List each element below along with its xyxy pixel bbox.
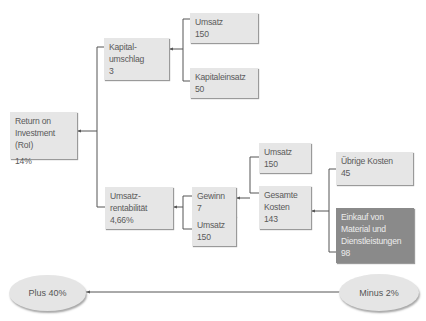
node-label: Umsatz- [110, 190, 168, 202]
node-umsatz-mid: Umsatz 150 [192, 216, 236, 246]
node-value: 143 [264, 213, 306, 225]
node-value: 45 [341, 167, 408, 179]
node-roi: Return on Investment (RoI) 14% [10, 112, 77, 159]
node-label: Kapitaleinsatz [195, 71, 253, 83]
node-umsatz-top: Umsatz 150 [190, 13, 258, 43]
node-value: 4,66% [110, 214, 168, 226]
node-value: 150 [264, 158, 306, 170]
node-value: 150 [197, 231, 231, 243]
node-einkauf: Einkauf von Material und Dienstleistunge… [336, 208, 414, 263]
node-value: 14% [15, 155, 72, 167]
node-label: Einkauf von [341, 211, 409, 223]
node-label: Return on [15, 115, 72, 127]
node-label: Gewinn [197, 190, 231, 202]
node-label: rentabilität [110, 202, 168, 214]
node-label: Kosten [264, 201, 306, 213]
node-label: Umsatz [264, 146, 306, 158]
node-umsatzrentabilitaet: Umsatz- rentabilität 4,66% [105, 187, 173, 229]
node-uebrige-kosten: Übrige Kosten 45 [336, 152, 413, 185]
node-value: 98 [341, 247, 409, 259]
node-gewinn: Gewinn 7 [192, 187, 236, 217]
node-kapitaleinsatz: Kapitaleinsatz 50 [190, 68, 258, 98]
node-label: Kapital- [109, 41, 164, 53]
node-label: Material und [341, 223, 409, 235]
node-value: 7 [197, 202, 231, 214]
ellipse-label: Plus 40% [28, 288, 66, 298]
node-label: Gesamte [264, 189, 306, 201]
node-label: Umsatz [197, 219, 231, 231]
node-value: 3 [109, 65, 164, 77]
ellipse-minus: Minus 2% [339, 274, 419, 311]
node-value: 150 [195, 28, 253, 40]
node-label: Übrige Kosten [341, 155, 408, 167]
node-label: Dienstleistungen [341, 235, 409, 247]
ellipse-label: Minus 2% [359, 288, 399, 298]
node-label: Investment (RoI) [15, 127, 72, 151]
node-value: 50 [195, 83, 253, 95]
node-label: umschlag [109, 53, 164, 65]
node-umsatz-right: Umsatz 150 [259, 143, 311, 173]
ellipse-plus: Plus 40% [9, 275, 86, 311]
node-gesamte-kosten: Gesamte Kosten 143 [259, 186, 311, 229]
node-kapitalumschlag: Kapital- umschlag 3 [104, 38, 169, 80]
node-label: Umsatz [195, 16, 253, 28]
